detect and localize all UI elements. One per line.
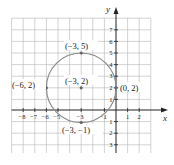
point-top	[80, 51, 83, 54]
y-tick-2: 2	[109, 84, 112, 91]
y-tick-3: 3	[109, 72, 112, 79]
point-center	[80, 86, 83, 89]
x-tick-neg6: −6	[42, 113, 50, 120]
x-tick-2: 2	[138, 113, 141, 120]
label-bottom-point: (−3, −1)	[62, 125, 90, 135]
label-top-point: (−3, 5)	[65, 41, 88, 51]
y-tick-1: 1	[109, 96, 112, 103]
y-tick-neg2: 2	[109, 129, 112, 136]
label-left-point: (−6, 2)	[12, 80, 35, 90]
y-tick-labels: 7 6 5 4 3 2 1 1 2 3	[109, 26, 113, 148]
x-tick-labels: −8 −7 −6 −5 −3 −1 1 2	[19, 113, 141, 120]
y-tick-5: 5	[109, 49, 112, 56]
x-tick-neg7: −7	[30, 113, 38, 120]
label-center-point: (−3, 2)	[65, 76, 88, 86]
y-tick-6: 6	[109, 38, 113, 45]
x-tick-neg3: −3	[77, 113, 84, 120]
x-tick-neg8: −8	[19, 113, 26, 120]
point-right	[114, 86, 117, 89]
y-axis-arrow-icon	[114, 7, 119, 14]
y-tick-neg1: 1	[109, 118, 112, 125]
x-axis-label: x	[162, 113, 167, 123]
x-tick-1: 1	[126, 113, 129, 120]
y-tick-neg3: 3	[109, 141, 112, 148]
circle-graph-figure: x y 7 6 5 4 3 2 1 1 2 3 −8 −7	[0, 0, 174, 165]
y-axis-label: y	[105, 4, 110, 14]
label-right-point: (0, 2)	[120, 83, 139, 93]
x-axis-arrow-icon	[161, 108, 168, 113]
